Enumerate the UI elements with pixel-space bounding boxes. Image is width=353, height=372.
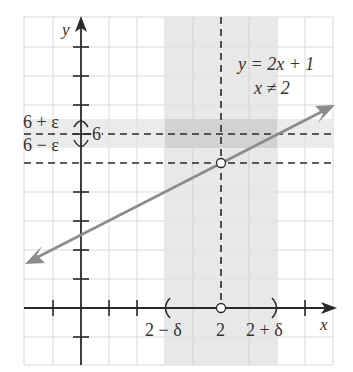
x-value-label: 2 <box>216 320 225 340</box>
x-right-label: 2 + δ <box>246 320 283 340</box>
y-value-label: 6 <box>92 124 101 144</box>
function-label: y = 2x + 1 <box>236 54 314 74</box>
domain-label: x ≠ 2 <box>253 78 290 98</box>
y-lower-label: 6 − ε <box>23 135 59 155</box>
x-axis-label: x <box>319 315 328 334</box>
x-left-label: 2 − δ <box>145 320 182 340</box>
y-axis-label: y <box>60 20 70 39</box>
x2-open-point-icon <box>217 304 226 313</box>
hole-point-icon <box>217 159 226 168</box>
y-upper-label: 6 + ε <box>23 112 59 132</box>
limit-diagram: y x 6 + ε 6 − ε 6 2 − δ 2 2 + δ y = 2x +… <box>0 0 353 372</box>
